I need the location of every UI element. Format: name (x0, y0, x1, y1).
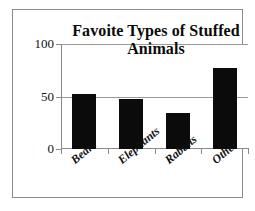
x-tick-0 (61, 148, 62, 154)
y-tick-label-0: 0 (48, 141, 55, 157)
plot-area: 050100 BearsElephantsRabbitsOther (61, 44, 248, 149)
chart-figure: 050100 BearsElephantsRabbitsOther Favoit… (0, 0, 255, 211)
x-tick-1 (108, 148, 109, 154)
chart-title-line-1: Favoite Types of Stuffed (72, 22, 240, 39)
chart-frame: 050100 BearsElephantsRabbitsOther Favoit… (12, 9, 243, 198)
chart-title: Favoite Types of Stuffed Animals (61, 22, 251, 58)
x-tick-2 (155, 148, 156, 154)
x-tick-3 (201, 148, 202, 154)
bar-other (213, 68, 237, 149)
chart-title-line-2: Animals (61, 40, 251, 58)
y-tick-label-50: 50 (41, 89, 54, 105)
y-tick-label-100: 100 (35, 36, 55, 52)
x-tick-4 (248, 148, 249, 154)
y-axis-line (61, 44, 62, 149)
